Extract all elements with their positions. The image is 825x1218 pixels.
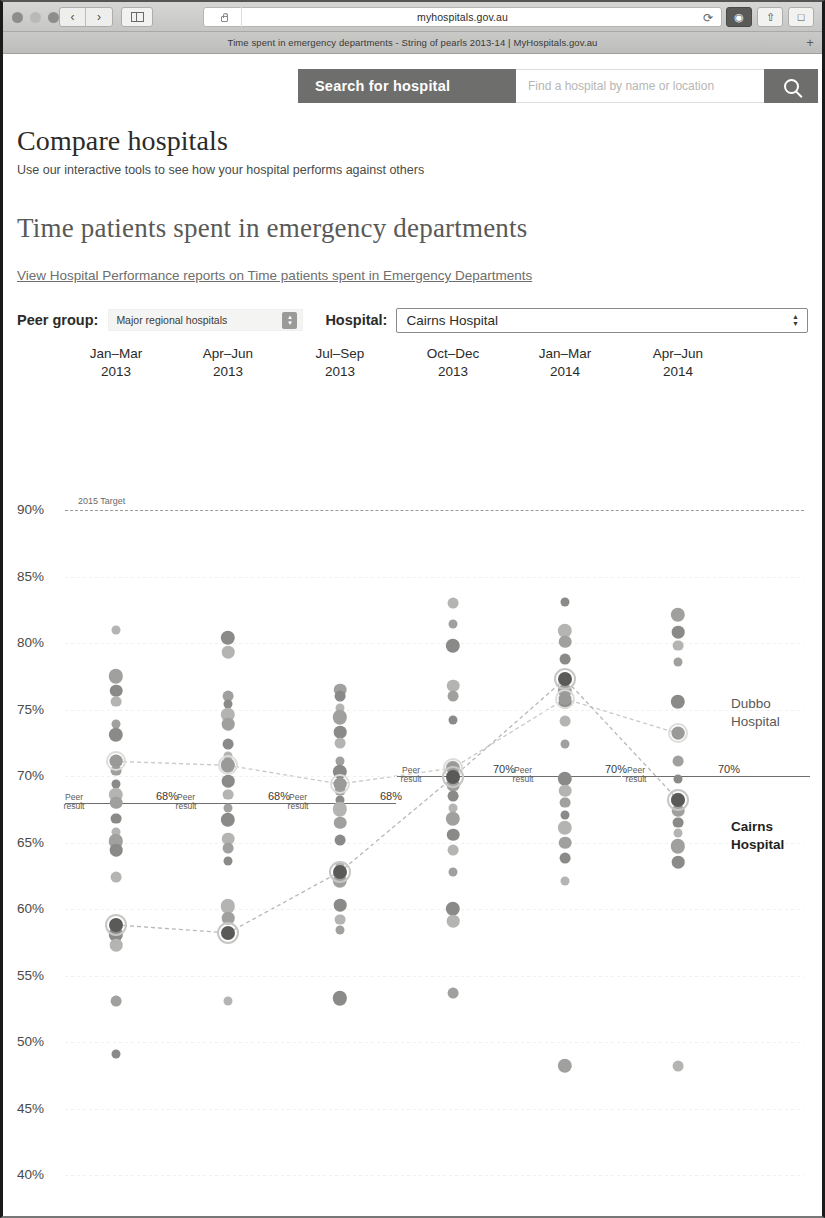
data-point[interactable] (110, 796, 123, 809)
maximize-window-icon[interactable] (48, 12, 59, 23)
data-point[interactable] (448, 987, 459, 998)
forward-icon[interactable]: › (86, 8, 112, 26)
sidebar-icon[interactable] (121, 7, 153, 27)
data-point[interactable] (224, 996, 233, 1005)
hospital-label: Hospital: (325, 312, 387, 328)
data-point[interactable] (111, 995, 122, 1006)
highlighted-data-point[interactable] (554, 668, 576, 690)
data-point[interactable] (448, 598, 459, 609)
highlighted-data-point[interactable] (667, 789, 689, 811)
back-icon[interactable]: ‹ (60, 8, 86, 26)
gridline (65, 710, 804, 711)
data-point[interactable] (334, 899, 347, 912)
data-point[interactable] (335, 834, 346, 845)
data-point[interactable] (560, 716, 571, 727)
data-point[interactable] (448, 691, 459, 702)
data-point[interactable] (224, 803, 233, 812)
data-point[interactable] (336, 926, 345, 935)
share-icon[interactable]: ⇧ (757, 7, 783, 27)
data-point[interactable] (111, 813, 122, 824)
data-point[interactable] (561, 740, 570, 749)
reload-icon[interactable]: ⟳ (703, 11, 713, 25)
data-point[interactable] (672, 626, 685, 639)
data-point[interactable] (111, 872, 122, 883)
data-point[interactable] (673, 640, 684, 651)
data-point[interactable] (112, 1049, 121, 1058)
data-point[interactable] (561, 810, 570, 819)
highlighted-data-point[interactable] (668, 723, 688, 743)
data-point[interactable] (447, 828, 460, 841)
minimize-window-icon[interactable] (30, 12, 41, 23)
data-point[interactable] (449, 620, 458, 629)
search-button[interactable] (764, 69, 818, 103)
new-tab-icon[interactable]: + (803, 36, 817, 50)
tab-strip[interactable]: Time spent in emergency departments - St… (3, 32, 822, 54)
data-point[interactable] (110, 939, 123, 952)
chevron-updown-icon[interactable]: ▲▼ (792, 313, 799, 327)
data-point[interactable] (335, 914, 346, 925)
hospital-select[interactable]: Cairns Hospital ▲▼ (396, 308, 808, 333)
highlighted-data-point[interactable] (442, 766, 464, 788)
data-point[interactable] (224, 857, 233, 866)
highlighted-data-point[interactable] (217, 922, 239, 944)
data-point[interactable] (335, 737, 346, 748)
reader-toggle-icon[interactable]: ◉ (726, 7, 752, 27)
highlighted-data-point[interactable] (218, 755, 238, 775)
data-point[interactable] (674, 829, 683, 838)
data-point[interactable] (672, 856, 685, 869)
data-point[interactable] (561, 597, 570, 606)
data-point[interactable] (673, 817, 684, 828)
highlighted-data-point[interactable] (106, 751, 126, 771)
peer-result-label: Peerresult (503, 766, 543, 784)
report-link[interactable]: View Hospital Performance reports on Tim… (17, 268, 532, 283)
peer-group-select[interactable]: Major regional hospitals ▲▼ (108, 309, 303, 331)
series-label-dubbo: DubboHospital (731, 695, 780, 731)
data-point[interactable] (673, 1061, 684, 1072)
data-point[interactable] (110, 844, 123, 857)
active-tab-title[interactable]: Time spent in emergency departments - St… (228, 37, 598, 48)
data-point[interactable] (449, 716, 458, 725)
close-window-icon[interactable] (12, 12, 23, 23)
data-point[interactable] (222, 646, 235, 659)
data-point[interactable] (674, 774, 683, 783)
highlighted-data-point[interactable] (105, 914, 127, 936)
data-point[interactable] (223, 739, 234, 750)
toolbar-actions[interactable]: ◉ ⇧ □ (726, 7, 814, 27)
data-point[interactable] (674, 657, 683, 666)
data-point[interactable] (222, 775, 235, 788)
data-point[interactable] (223, 789, 234, 800)
page-subtitle: Use our interactive tools to see how you… (17, 163, 424, 177)
y-axis-label: 55% (17, 968, 63, 983)
highlighted-data-point[interactable] (330, 774, 350, 794)
address-bar[interactable]: myhospitals.gov.au ⟳ (203, 7, 722, 27)
data-point[interactable] (559, 784, 572, 797)
data-point[interactable] (560, 853, 571, 864)
data-point[interactable] (334, 816, 347, 829)
highlighted-data-point[interactable] (555, 689, 575, 709)
data-point[interactable] (111, 696, 122, 707)
data-point[interactable] (449, 867, 458, 876)
data-point[interactable] (222, 718, 235, 731)
search-input[interactable]: Find a hospital by name or location (516, 69, 764, 103)
highlighted-data-point[interactable] (329, 861, 351, 883)
data-point[interactable] (559, 635, 572, 648)
data-point[interactable] (448, 791, 459, 802)
data-point[interactable] (560, 797, 571, 808)
data-point[interactable] (447, 915, 460, 928)
data-point[interactable] (559, 836, 572, 849)
data-point[interactable] (112, 625, 121, 634)
tabs-overview-icon[interactable]: □ (788, 7, 814, 27)
hospital-search-bar: Search for hospital Find a hospital by n… (298, 69, 818, 103)
navigation-buttons[interactable]: ‹ › (59, 7, 113, 27)
window-controls[interactable] (12, 12, 59, 23)
data-point[interactable] (448, 845, 459, 856)
url-text: myhospitals.gov.au (204, 11, 721, 23)
data-point[interactable] (560, 654, 571, 665)
gridline (65, 843, 804, 844)
chevron-updown-icon[interactable]: ▲▼ (282, 312, 297, 329)
data-point[interactable] (335, 691, 346, 702)
gridline (65, 1042, 804, 1043)
data-point[interactable] (223, 842, 234, 853)
data-point[interactable] (561, 877, 570, 886)
data-point[interactable] (673, 756, 684, 767)
